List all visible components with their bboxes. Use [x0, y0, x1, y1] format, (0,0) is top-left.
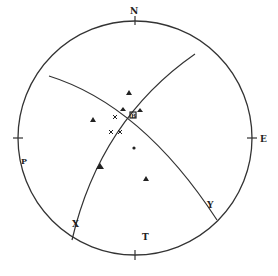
east-label: E: [260, 134, 267, 144]
triangle-point: [96, 163, 104, 169]
north-label: N: [130, 6, 138, 16]
cross-point: [113, 115, 117, 119]
stereonet-diagram: N E P B X Y T: [0, 0, 278, 276]
dot-point: [132, 146, 135, 149]
triangle-point: [143, 176, 149, 181]
triangle-point: [120, 107, 126, 111]
intersection-label: B: [131, 112, 136, 119]
triangle-point: [137, 108, 143, 112]
p-label: P: [21, 156, 27, 166]
t-label: T: [142, 232, 149, 242]
triangle-point: [126, 90, 132, 95]
y-label: Y: [206, 200, 214, 210]
cross-point: [109, 130, 113, 134]
triangle-point: [90, 117, 96, 122]
x-label: X: [72, 219, 79, 229]
cross-point: [118, 130, 122, 134]
